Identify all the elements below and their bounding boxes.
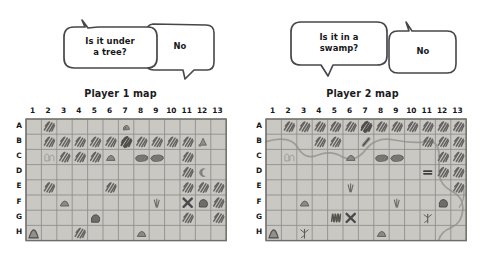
row-header-B: B <box>14 136 24 145</box>
column-header-8: 8 <box>373 106 388 115</box>
row-header-D: D <box>254 166 264 175</box>
column-header-6: 6 <box>342 106 357 115</box>
column-header-1: 1 <box>25 106 40 115</box>
player-1-panel: No Is it under a tree? Player 1 map 1234… <box>0 0 241 267</box>
map-cell-C9-swamp[interactable] <box>151 155 164 161</box>
player-1-map-title: Player 1 map <box>0 88 241 99</box>
column-header-1: 1 <box>265 106 280 115</box>
map-canvas[interactable] <box>265 118 467 242</box>
question-bubble-1: Is it under a tree? <box>58 18 162 76</box>
row-header-H: H <box>14 227 24 236</box>
column-header-4: 4 <box>71 106 86 115</box>
answer-bubble-2: No <box>384 20 462 82</box>
question-bubble-1-text: Is it under a tree? <box>58 36 162 57</box>
column-header-5: 5 <box>87 106 102 115</box>
question-bubble-2-text: Is it in a swamp? <box>285 32 393 53</box>
row-header-E: E <box>254 181 264 190</box>
column-header-7: 7 <box>357 106 372 115</box>
map-cell-F12-boulder[interactable] <box>199 199 207 206</box>
column-header-9: 9 <box>388 106 403 115</box>
question-bubble-2: Is it in a swamp? <box>285 18 393 80</box>
player-2-dialogue: No Is it in a swamp? <box>242 6 483 86</box>
row-header-H: H <box>254 227 264 236</box>
column-header-8: 8 <box>133 106 148 115</box>
map-canvas[interactable] <box>25 118 227 242</box>
row-header-A: A <box>254 121 264 130</box>
row-header-F: F <box>254 197 264 206</box>
column-header-12: 12 <box>194 106 209 115</box>
player-1-dialogue: No Is it under a tree? <box>0 6 241 86</box>
column-header-3: 3 <box>296 106 311 115</box>
column-header-11: 11 <box>179 106 194 115</box>
player-2-panel: No Is it in a swamp? Player 2 map 123456… <box>242 0 483 267</box>
player-2-map-title: Player 2 map <box>242 88 483 99</box>
row-header-E: E <box>14 181 24 190</box>
row-header-C: C <box>14 151 24 160</box>
row-header-C: C <box>254 151 264 160</box>
map-cell-C8-swamp[interactable] <box>375 155 388 161</box>
column-header-13: 13 <box>210 106 225 115</box>
column-header-13: 13 <box>450 106 465 115</box>
illustration-canvas: No Is it under a tree? Player 1 map 1234… <box>0 0 483 267</box>
player-1-grid-area[interactable] <box>25 118 227 242</box>
column-header-3: 3 <box>56 106 71 115</box>
row-header-F: F <box>14 197 24 206</box>
map-cell-A7-rock[interactable] <box>123 125 129 130</box>
column-header-10: 10 <box>404 106 419 115</box>
column-header-6: 6 <box>102 106 117 115</box>
map-cell-C9-swamp[interactable] <box>391 155 404 161</box>
map-cell-F12-boulder[interactable] <box>439 199 447 206</box>
row-header-B: B <box>254 136 264 145</box>
map-cell-G5-boulder[interactable] <box>91 215 99 222</box>
column-header-5: 5 <box>327 106 342 115</box>
player-2-grid-area[interactable] <box>265 118 467 242</box>
row-header-G: G <box>254 212 264 221</box>
row-header-G: G <box>14 212 24 221</box>
column-header-9: 9 <box>148 106 163 115</box>
answer-bubble-2-text: No <box>384 46 462 57</box>
column-header-11: 11 <box>419 106 434 115</box>
column-header-12: 12 <box>434 106 449 115</box>
row-header-D: D <box>14 166 24 175</box>
row-header-A: A <box>14 121 24 130</box>
column-header-10: 10 <box>164 106 179 115</box>
column-header-7: 7 <box>117 106 132 115</box>
map-cell-C8-swamp[interactable] <box>135 155 148 161</box>
column-header-4: 4 <box>311 106 326 115</box>
column-header-2: 2 <box>40 106 55 115</box>
column-header-2: 2 <box>280 106 295 115</box>
